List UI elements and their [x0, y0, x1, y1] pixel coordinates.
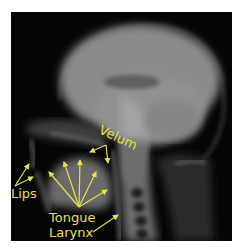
velum-arrow-1: [90, 145, 106, 152]
larynx-arrow: [93, 215, 118, 232]
mri-image: Velum Lips Tongue Larynx: [11, 12, 232, 241]
mri-figure: Velum Lips Tongue Larynx: [11, 12, 232, 241]
larynx-label: Larynx: [49, 225, 93, 240]
velum-arrow-2: [106, 145, 108, 163]
tongue-label: Tongue: [48, 210, 95, 225]
lips-label: Lips: [11, 186, 37, 201]
